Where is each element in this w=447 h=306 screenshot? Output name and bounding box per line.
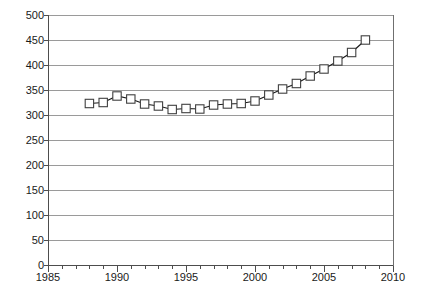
x-tick-mark-1998 (227, 266, 228, 269)
x-tick-mark-2008 (365, 266, 366, 269)
y-tick-mark-200 (44, 165, 49, 166)
y-tick-mark-500 (44, 15, 49, 16)
x-tick-mark-1987 (76, 266, 77, 269)
y-tick-label-100: 100 (2, 210, 44, 221)
y-tick-label-0: 0 (2, 260, 44, 271)
x-tick-mark-2004 (310, 266, 311, 269)
x-tick-mark-2003 (296, 266, 297, 269)
y-tick-label-500: 500 (2, 10, 44, 21)
y-tick-label-150: 150 (2, 185, 44, 196)
x-tick-mark-2009 (379, 266, 380, 269)
x-tick-mark-1995 (186, 266, 187, 272)
x-tick-mark-2000 (255, 266, 256, 272)
x-tick-mark-2007 (352, 266, 353, 269)
x-tick-mark-1994 (172, 266, 173, 269)
gridline-y-50 (48, 240, 393, 241)
y-tick-mark-350 (44, 90, 49, 91)
x-tick-mark-1996 (200, 266, 201, 269)
x-tick-label-2000: 2000 (225, 271, 285, 283)
x-tick-mark-1999 (241, 266, 242, 269)
gridline-y-450 (48, 40, 393, 41)
y-tick-mark-150 (44, 190, 49, 191)
x-tick-mark-1993 (158, 266, 159, 269)
gridline-y-300 (48, 115, 393, 116)
x-tick-mark-1985 (48, 266, 49, 272)
plot-area (48, 15, 393, 265)
x-axis-line (48, 265, 394, 266)
y-tick-label-50: 50 (2, 235, 44, 246)
y-tick-mark-400 (44, 65, 49, 66)
y-tick-mark-100 (44, 215, 49, 216)
y-tick-label-200: 200 (2, 160, 44, 171)
y-tick-label-250: 250 (2, 135, 44, 146)
y-tick-mark-300 (44, 115, 49, 116)
x-tick-mark-2001 (269, 266, 270, 269)
y-tick-mark-50 (44, 240, 49, 241)
gridline-y-200 (48, 165, 393, 166)
x-tick-mark-1988 (89, 266, 90, 269)
x-tick-mark-1992 (145, 266, 146, 269)
gridline-y-100 (48, 215, 393, 216)
x-tick-mark-2010 (393, 266, 394, 272)
x-tick-mark-2002 (283, 266, 284, 269)
x-tick-label-2005: 2005 (294, 271, 354, 283)
gridline-y-250 (48, 140, 393, 141)
y-tick-label-400: 400 (2, 60, 44, 71)
x-tick-mark-2006 (338, 266, 339, 269)
x-tick-mark-1997 (214, 266, 215, 269)
gridline-y-400 (48, 65, 393, 66)
x-tick-mark-1990 (117, 266, 118, 272)
x-tick-label-1985: 1985 (18, 271, 78, 283)
x-tick-mark-1986 (62, 266, 63, 269)
right-axis-line (393, 15, 394, 266)
x-tick-label-1990: 1990 (87, 271, 147, 283)
y-tick-label-450: 450 (2, 35, 44, 46)
y-tick-mark-450 (44, 40, 49, 41)
chart-container: 050100150200250300350400450500 198519901… (0, 0, 447, 306)
x-tick-mark-2005 (324, 266, 325, 272)
y-tick-mark-250 (44, 140, 49, 141)
x-tick-mark-1989 (103, 266, 104, 269)
y-axis-labels: 050100150200250300350400450500 (0, 0, 44, 306)
gridline-y-350 (48, 90, 393, 91)
y-tick-label-300: 300 (2, 110, 44, 121)
x-tick-mark-1991 (131, 266, 132, 269)
x-tick-label-2010: 2010 (363, 271, 423, 283)
y-tick-label-350: 350 (2, 85, 44, 96)
gridline-y-150 (48, 190, 393, 191)
x-tick-label-1995: 1995 (156, 271, 216, 283)
gridline-y-500 (48, 15, 393, 16)
x-axis-labels: 198519901995200020052010 (0, 271, 447, 287)
